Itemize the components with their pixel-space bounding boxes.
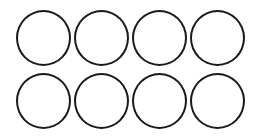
circle-r2-c4 <box>190 73 245 129</box>
circle-r2-c2 <box>74 73 129 129</box>
circle-r1-c3 <box>132 10 187 66</box>
circle-r1-c4 <box>190 10 245 66</box>
circle-grid <box>16 10 245 129</box>
circle-r1-c2 <box>74 10 129 66</box>
circle-r2-c1 <box>16 73 71 129</box>
circle-r1-c1 <box>16 10 71 66</box>
circle-r2-c3 <box>132 73 187 129</box>
